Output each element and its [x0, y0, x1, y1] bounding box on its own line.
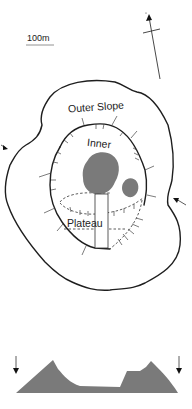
arrow-left-marker [1, 145, 8, 150]
arrow-right-marker [173, 198, 186, 205]
site-map: 100m [0, 0, 192, 409]
north-arrow-icon [143, 12, 160, 79]
profile-fill [16, 360, 178, 393]
small-gray-feature [122, 178, 138, 197]
scale-bar: 100m [26, 33, 54, 45]
scale-bar-label: 100m [27, 33, 50, 43]
cross-section-profile [13, 356, 182, 393]
large-gray-feature [83, 152, 119, 194]
inner-label: Inner [87, 136, 113, 150]
plateau-label: Plateau [67, 217, 103, 229]
down-arrow-right [176, 356, 182, 374]
outer-slope-label: Outer Slope [68, 99, 125, 115]
down-arrow-left [13, 356, 19, 374]
